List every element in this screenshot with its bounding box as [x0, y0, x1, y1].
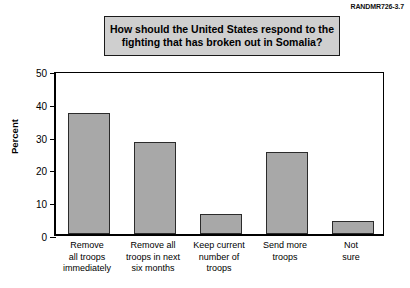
bar	[332, 221, 374, 234]
x-axis-label: Notsure	[311, 240, 391, 263]
bar	[134, 142, 176, 234]
bar	[68, 113, 110, 234]
y-axis-tick-label: 40	[36, 100, 47, 111]
y-axis-title: Percent	[9, 119, 20, 154]
bar	[266, 152, 308, 234]
x-axis-label-line: Not	[311, 240, 391, 252]
y-axis-tick-label: 20	[36, 166, 47, 177]
figure-root: RANDMR726-3.7 How should the United Stat…	[0, 0, 410, 288]
y-axis-tick	[50, 237, 56, 238]
x-axis-label-line: troops	[179, 263, 259, 275]
y-axis-tick-label: 10	[36, 199, 47, 210]
y-axis-tick-label: 30	[36, 133, 47, 144]
chart-title-line-2: fighting that has broken out in Somalia?	[122, 36, 323, 49]
chart-title-line-1: How should the United States respond to …	[110, 23, 334, 36]
x-axis-label-line: sure	[311, 252, 391, 264]
x-axis-labels: Removeall troopsimmediatelyRemove alltro…	[54, 240, 384, 286]
chart-title-box: How should the United States respond to …	[104, 16, 340, 56]
figure-id-label: RANDMR726-3.7	[350, 3, 404, 10]
plot-area: 01020304050	[54, 72, 384, 236]
y-axis-tick-label: 50	[36, 68, 47, 79]
bar-series	[56, 73, 383, 234]
bar	[200, 214, 242, 234]
